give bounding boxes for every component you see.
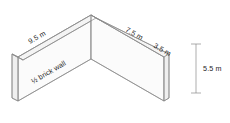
right-wing-end-cap-face <box>164 54 169 101</box>
left-wing-end-cap-face <box>12 54 18 101</box>
isometric-wall-drawing: 9.5 m 7.5 m 3.5 m 5.5 m ½ brick wall <box>0 0 230 123</box>
left-wing-front-face <box>18 15 91 101</box>
dimension-label-height: 5.5 m <box>203 64 222 73</box>
wall-drawing-canvas: 9.5 m 7.5 m 3.5 m 5.5 m ½ brick wall <box>0 0 230 123</box>
